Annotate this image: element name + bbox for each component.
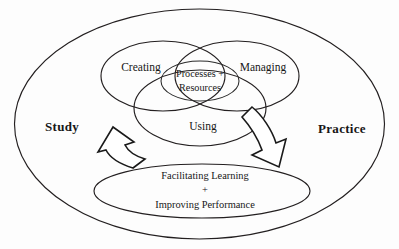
center-label-line2: Resources bbox=[179, 82, 221, 93]
concept-diagram: Creating Managing Using Processes + Reso… bbox=[0, 0, 399, 249]
arrow-up-left bbox=[98, 127, 145, 168]
venn-label-creating: Creating bbox=[121, 61, 161, 74]
venn-label-using: Using bbox=[189, 120, 217, 133]
center-label-line1: Processes + bbox=[176, 68, 224, 79]
venn-label-managing: Managing bbox=[240, 61, 287, 74]
outcome-label-line1: Facilitating Learning bbox=[161, 170, 248, 181]
diagram-canvas: Creating Managing Using Processes + Reso… bbox=[0, 0, 399, 249]
outcome-label-line3: Improving Performance bbox=[155, 199, 255, 210]
outcome-label-line2: + bbox=[202, 184, 208, 195]
arrow-down-right bbox=[242, 107, 286, 167]
label-practice: Practice bbox=[318, 121, 366, 136]
label-study: Study bbox=[45, 119, 79, 134]
center-lens-ellipse bbox=[161, 61, 239, 101]
